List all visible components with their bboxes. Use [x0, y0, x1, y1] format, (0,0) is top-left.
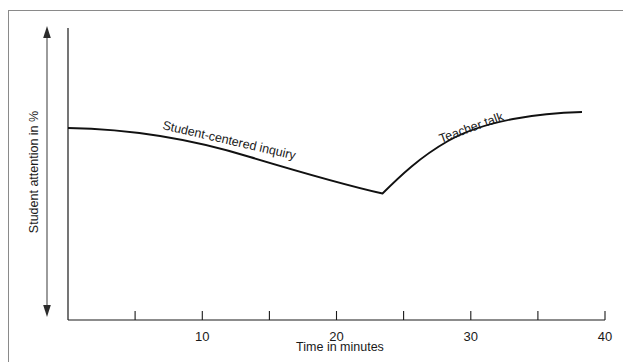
y-axis-title: Student attention in %: [27, 111, 41, 233]
attention-curve: [68, 112, 582, 194]
series-label-teacher-talk: Teacher talk: [437, 109, 506, 145]
y-arrow-head-down-icon: [43, 305, 51, 317]
attention-over-time-line-chart: 10 20 30 40 Time in minutes Student atte…: [0, 0, 631, 364]
figure-container: 10 20 30 40 Time in minutes Student atte…: [0, 0, 631, 364]
x-axis-ticks: [135, 311, 605, 320]
x-axis-title: Time in minutes: [296, 340, 384, 354]
y-axis-range-arrow: [43, 26, 51, 317]
y-arrow-head-up-icon: [43, 26, 51, 38]
x-tick-label-30: 30: [464, 329, 478, 344]
x-tick-label-10: 10: [195, 329, 209, 344]
x-tick-label-40: 40: [598, 329, 612, 344]
